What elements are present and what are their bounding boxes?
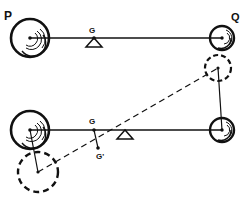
top-g-point: [92, 36, 96, 40]
lever-diagram: P Q G G G': [0, 0, 246, 203]
label-p: P: [4, 9, 12, 23]
label-g-top: G: [89, 26, 95, 35]
top-figure: [11, 19, 234, 57]
bottom-figure: [11, 55, 234, 192]
label-g-prime: G': [96, 152, 104, 161]
label-g-bottom: G: [89, 117, 95, 126]
bottom-g-point: [92, 128, 96, 132]
displaced-beam: [38, 68, 218, 172]
label-q: Q: [231, 11, 240, 23]
q-displacement-arm: [218, 68, 222, 130]
g-prime-point: [96, 146, 100, 150]
bottom-fulcrum-triangle: [117, 130, 133, 139]
